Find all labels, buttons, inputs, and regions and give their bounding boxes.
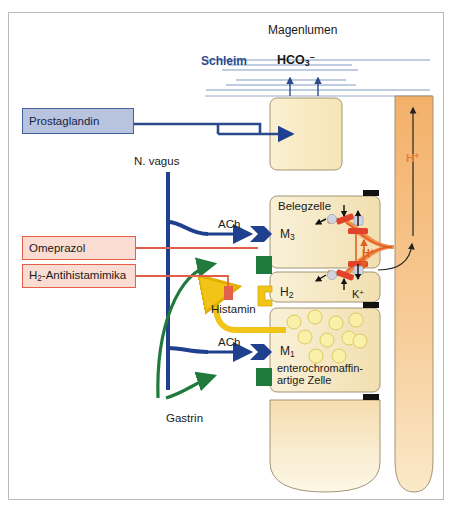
prostaglandin-label: Prostaglandin <box>29 115 99 127</box>
mucus-label: Schleim <box>201 55 247 68</box>
bicarbonate-label: HCO3– <box>277 53 315 69</box>
receptor-m1-label: M1 <box>280 345 295 359</box>
omeprazol-block <box>224 286 233 300</box>
receptor-m1 <box>250 344 272 360</box>
gland-base-cell <box>270 400 380 492</box>
histamin-label: Histamin <box>211 303 256 316</box>
drug-box-prostaglandin[interactable]: Prostaglandin <box>22 108 134 134</box>
h-plus-lumen-label: H+ <box>406 152 419 165</box>
ach-upper-label: ACh <box>218 218 240 231</box>
receptor-proton-pump-site <box>256 256 272 274</box>
omeprazol-label: Omeprazol <box>29 242 85 254</box>
h2-antihistaminika-label: H2-Antihistamimika <box>29 269 126 283</box>
receptor-ecl <box>256 368 272 386</box>
drug-box-h2-antihistaminika[interactable]: H2-Antihistamimika <box>22 264 136 288</box>
drug-box-omeprazol[interactable]: Omeprazol <box>22 236 136 260</box>
parietal-cell-label: Belegzelle <box>278 200 331 213</box>
receptor-m3 <box>250 226 272 242</box>
receptor-h2-label: H2 <box>280 286 293 300</box>
bicarbonate-arrows <box>290 78 318 96</box>
k-plus-label: K+ <box>352 288 364 300</box>
ecl-cell-label: enterochromaffin-artige Zelle <box>277 362 363 387</box>
gastrin-label: Gastrin <box>166 412 203 425</box>
vagus-label: N. vagus <box>134 155 179 168</box>
ach-lower-label: ACh <box>218 336 240 349</box>
h-plus-canaliculus-label: H+ <box>362 247 375 259</box>
prostaglandin-line <box>134 124 292 134</box>
receptor-m3-label: M3 <box>280 228 295 242</box>
lumen-title: Magenlumen <box>268 24 337 37</box>
figure-canvas: Magenlumen Schleim HCO3– Prostaglandin O… <box>0 0 452 511</box>
